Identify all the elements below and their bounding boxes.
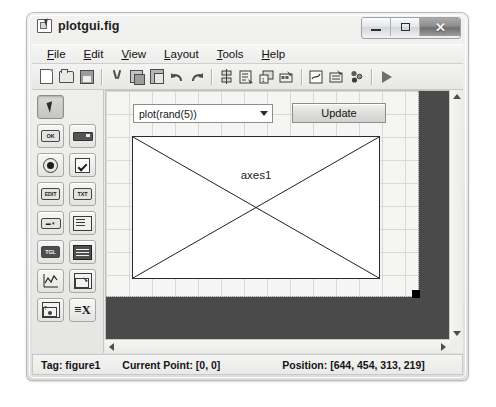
close-button[interactable]: ✕ (420, 18, 460, 36)
palette-row (37, 269, 103, 293)
redo-icon[interactable] (187, 67, 206, 86)
panel-tool[interactable] (69, 269, 96, 293)
status-tag: Tag: figure1 (41, 359, 100, 371)
menu-item-help[interactable]: Help (253, 46, 295, 62)
palette-row (37, 153, 103, 177)
property-inspector-icon[interactable] (327, 67, 346, 86)
align-objects-icon[interactable] (217, 67, 236, 86)
checkbox-tool[interactable] (69, 153, 96, 177)
edit-text-glyph-label: EDIT (45, 191, 57, 197)
toggle-button-icon: TGL (41, 246, 60, 258)
minimize-button[interactable] (362, 18, 391, 36)
push-button-glyph-label: OK (47, 133, 55, 139)
toolbar-editor-icon[interactable] (277, 67, 296, 86)
figure-resize-handle[interactable] (412, 290, 420, 298)
palette-row: EDIT TXT (37, 182, 103, 206)
palette-row: T ≡X (37, 298, 103, 322)
paste-icon[interactable] (147, 67, 166, 86)
canvas-outside-bottom (106, 297, 449, 339)
vertical-scrollbar[interactable] (449, 90, 463, 340)
panel-icon (74, 273, 92, 289)
static-text-glyph-label: TXT (78, 191, 88, 197)
menu-bar: File Edit View Layout Tools Help (32, 44, 463, 64)
scroll-left-arrow[interactable] (106, 341, 117, 352)
palette-row: ▬ ▾ (37, 211, 103, 235)
horizontal-scrollbar[interactable] (105, 339, 450, 353)
popup-menu-tool[interactable]: ▬ ▾ (37, 211, 64, 235)
title-left-group: plotgui.fig (37, 19, 120, 33)
table-tool[interactable] (69, 240, 96, 264)
popup-menu-widget[interactable]: plot(rand(5)) (133, 104, 273, 123)
figure-canvas[interactable]: plot(rand(5)) Update axes1 (105, 90, 450, 340)
axes-icon (42, 274, 59, 288)
edit-text-tool[interactable]: EDIT (37, 182, 64, 206)
button-group-icon: T (42, 302, 60, 318)
status-bar: Tag: figure1 Current Point: [0, 0] Posit… (32, 354, 463, 375)
axes-tool[interactable] (37, 269, 64, 293)
window-controls: ✕ (361, 17, 461, 39)
menu-item-edit[interactable]: Edit (75, 46, 113, 62)
palette-row (37, 95, 103, 119)
new-figure-icon[interactable] (37, 67, 56, 86)
undo-icon[interactable] (167, 67, 186, 86)
slider-icon (73, 132, 93, 141)
title-bar: plotgui.fig ✕ (27, 13, 468, 44)
push-button-tool[interactable]: OK (37, 124, 64, 148)
guide-figure-icon (37, 19, 52, 33)
slider-tool[interactable] (69, 124, 96, 148)
chevron-down-icon[interactable] (256, 111, 272, 116)
menu-editor-icon[interactable] (237, 67, 256, 86)
popup-menu-icon: ▬ ▾ (41, 218, 61, 229)
radio-button-tool[interactable] (37, 153, 64, 177)
open-figure-icon[interactable] (57, 67, 76, 86)
toolbar-separator (301, 69, 302, 85)
layout-editor-body: OK EDIT (32, 90, 463, 353)
update-button[interactable]: Update (292, 103, 386, 123)
copy-icon[interactable] (127, 67, 146, 86)
static-text-tool[interactable]: TXT (69, 182, 96, 206)
activex-icon: ≡X (74, 302, 91, 318)
guide-window: plotgui.fig ✕ File Edit View Layout Tool… (27, 13, 468, 380)
scroll-right-arrow[interactable] (438, 341, 449, 352)
push-button-icon: OK (41, 130, 60, 142)
m-file-editor-icon[interactable] (307, 67, 326, 86)
toolbar-separator (371, 69, 372, 85)
listbox-tool[interactable] (69, 211, 96, 235)
toolbar-separator (101, 69, 102, 85)
menu-item-layout[interactable]: Layout (155, 46, 208, 62)
run-figure-icon[interactable] (377, 67, 396, 86)
activex-control-tool[interactable]: ≡X (69, 298, 96, 322)
toggle-button-tool[interactable]: TGL (37, 240, 64, 264)
radio-button-icon (43, 158, 58, 173)
menu-item-tools[interactable]: Tools (208, 46, 253, 62)
update-button-label: Update (321, 107, 356, 119)
maximize-button[interactable] (391, 18, 420, 36)
menu-item-view[interactable]: View (112, 46, 155, 62)
menu-item-file[interactable]: File (38, 46, 75, 62)
save-figure-icon[interactable] (77, 67, 96, 86)
button-group-tool[interactable]: T (37, 298, 64, 322)
popup-menu-value: plot(rand(5)) (134, 108, 256, 120)
close-icon: ✕ (435, 21, 446, 34)
status-position: Position: [644, 454, 313, 219] (282, 359, 424, 371)
axes-widget[interactable]: axes1 (132, 136, 380, 279)
object-browser-icon[interactable] (347, 67, 366, 86)
edit-text-icon: EDIT (41, 188, 60, 200)
listbox-icon (73, 216, 92, 231)
select-tool[interactable] (37, 95, 64, 119)
scroll-up-arrow[interactable] (451, 91, 462, 102)
component-palette: OK EDIT (32, 90, 104, 353)
arrow-cursor-icon (46, 101, 55, 112)
scroll-down-arrow[interactable] (451, 328, 462, 339)
cut-icon[interactable] (107, 67, 126, 86)
palette-row: OK (37, 124, 103, 148)
palette-row: TGL (37, 240, 103, 264)
minimize-icon (371, 29, 381, 31)
static-text-icon: TXT (73, 188, 92, 200)
table-icon (73, 245, 92, 260)
maximize-icon (401, 23, 410, 31)
tab-order-editor-icon[interactable]: 1 (257, 67, 276, 86)
window-title: plotgui.fig (58, 19, 120, 33)
tool-bar: 1 (32, 64, 463, 90)
checkbox-icon (75, 158, 90, 173)
